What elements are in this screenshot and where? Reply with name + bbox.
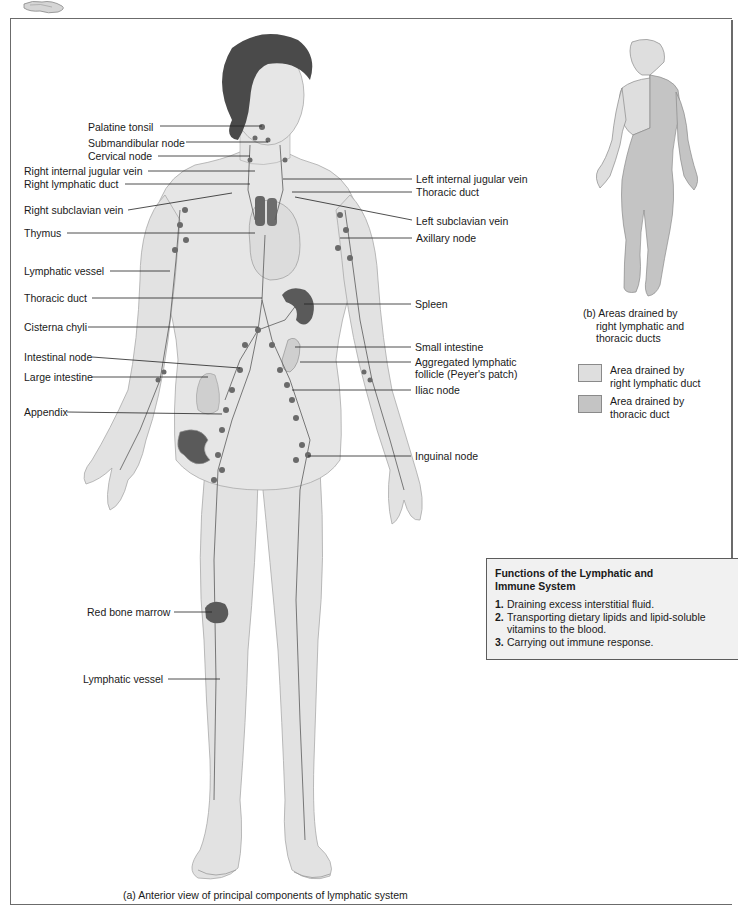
panel-b-caption: (b) Areas drained by right lymphatic and… <box>583 307 684 345</box>
legend-label-line: right lymphatic duct <box>610 377 700 390</box>
label-cisterna-chyli: Cisterna chyli <box>24 321 87 333</box>
function-number: 1. <box>495 598 507 611</box>
label-thoracic-duct-right: Thoracic duct <box>416 186 479 198</box>
label-axillary-node: Axillary node <box>416 232 476 244</box>
functions-box: Functions of the Lymphatic and Immune Sy… <box>486 558 738 660</box>
function-item-3: 3. Carrying out immune response. <box>495 636 730 649</box>
label-thymus: Thymus <box>24 227 61 239</box>
function-text: Draining excess interstitial fluid. <box>507 598 654 611</box>
legend-label-line: Area drained by <box>610 364 700 377</box>
label-right-internal-jugular-vein: Right internal jugular vein <box>24 165 142 177</box>
panel-b-caption-line-3: thoracic ducts <box>583 332 684 345</box>
functions-title-line-1: Functions of the Lymphatic and <box>495 567 730 580</box>
legend-item-thoracic-duct: Area drained by thoracic duct <box>578 395 684 420</box>
functions-box-title: Functions of the Lymphatic and Immune Sy… <box>495 567 730 593</box>
label-left-internal-jugular-vein: Left internal jugular vein <box>416 173 528 185</box>
panel-b-caption-line-1: (b) Areas drained by <box>583 307 684 320</box>
label-palatine-tonsil: Palatine tonsil <box>88 121 153 133</box>
label-lymphatic-vessel-leg: Lymphatic vessel <box>83 673 163 685</box>
label-right-lymphatic-duct: Right lymphatic duct <box>24 178 119 190</box>
label-spleen: Spleen <box>415 298 448 310</box>
label-submandibular-node: Submandibular node <box>88 137 185 149</box>
label-right-subclavian-vein: Right subclavian vein <box>24 204 123 216</box>
label-cervical-node: Cervical node <box>88 150 152 162</box>
label-appendix: Appendix <box>24 406 68 418</box>
label-aggregated-lymphatic-follicle-line2: follicle (Peyer's patch) <box>415 368 517 380</box>
label-thoracic-duct-left: Thoracic duct <box>24 292 87 304</box>
functions-title-line-2: Immune System <box>495 580 730 593</box>
legend-swatch-light <box>578 364 602 382</box>
legend-swatch-dark <box>578 395 602 413</box>
label-large-intestine: Large intestine <box>24 371 93 383</box>
function-number: 2. <box>495 611 507 636</box>
label-iliac-node: Iliac node <box>415 384 460 396</box>
label-red-bone-marrow: Red bone marrow <box>87 606 170 618</box>
label-left-subclavian-vein: Left subclavian vein <box>416 215 508 227</box>
function-text: Transporting dietary lipids and lipid-so… <box>507 611 706 624</box>
panel-b-caption-line-2: right lymphatic and <box>583 320 684 333</box>
panel-a-caption: (a) Anterior view of principal component… <box>123 889 408 901</box>
legend-label-line: Area drained by <box>610 395 684 408</box>
function-text: Carrying out immune response. <box>507 636 653 649</box>
legend-item-right-lymphatic-duct: Area drained by right lymphatic duct <box>578 364 700 389</box>
label-intestinal-node: Intestinal node <box>24 351 92 363</box>
function-item-1: 1. Draining excess interstitial fluid. <box>495 598 730 611</box>
legend-label-line: thoracic duct <box>610 408 684 421</box>
function-item-2: 2. Transporting dietary lipids and lipid… <box>495 611 730 636</box>
function-text-continued: vitamins to the blood. <box>507 623 706 636</box>
label-lymphatic-vessel-arm: Lymphatic vessel <box>24 265 104 277</box>
label-inguinal-node: Inguinal node <box>415 450 478 462</box>
label-small-intestine: Small intestine <box>415 341 483 353</box>
label-aggregated-lymphatic-follicle-line1: Aggregated lymphatic <box>415 356 517 368</box>
function-number: 3. <box>495 636 507 649</box>
